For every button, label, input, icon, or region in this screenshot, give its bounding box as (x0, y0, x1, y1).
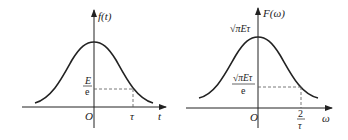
left-x-axis-label: t (158, 110, 162, 122)
left-function-label: f(t) (98, 10, 112, 23)
left-level-numerator: E (84, 75, 91, 86)
left-plot: f(t) O t τ E e (22, 10, 166, 128)
left-level-denominator: e (85, 86, 90, 97)
right-origin-label: O (250, 111, 258, 123)
right-tick-numerator: 2 (298, 108, 303, 119)
right-level-denominator: e (241, 85, 246, 96)
left-origin-label: O (85, 110, 93, 122)
right-tick-denominator: τ (298, 120, 302, 131)
right-plot: F(ω) √πEτ √πEτ e O 2 τ ω (186, 7, 332, 131)
left-tau-tick-label: τ (130, 110, 135, 122)
right-x-axis-label: ω (322, 112, 330, 124)
right-function-label: F(ω) (262, 7, 285, 20)
right-peak-label: √πEτ (230, 23, 251, 34)
right-level-numerator: √πEτ (233, 73, 253, 83)
gaussian-pair-diagram: f(t) O t τ E e F(ω) √πEτ √πEτ e O 2 τ ω (0, 0, 348, 140)
